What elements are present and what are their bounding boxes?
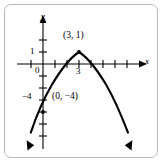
vertex-point-label: (3, 1) [63,31,84,41]
y-axis-label: y [41,12,45,21]
origin-label: 0 [35,66,40,75]
y-tick-label-neg4: −4 [22,92,32,101]
y-tick-label-1: 1 [30,47,35,56]
x-axis-label: x [145,57,149,66]
curve-right-arrow-icon [125,140,133,150]
graph-canvas [0,0,164,164]
curve-left-arrow-icon [27,140,35,150]
y-intercept-point-marker [41,110,45,114]
x-tick-label-3: 3 [76,67,81,76]
y-intercept-point-label: (0, −4) [52,92,78,102]
figure-container: y x 1 0 3 −4 (3, 1) (0, −4) [0,0,164,164]
vertex-point-marker [77,50,81,54]
